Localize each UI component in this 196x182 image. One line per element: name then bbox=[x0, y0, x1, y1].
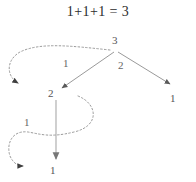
dashed-lower-s-curve bbox=[9, 96, 93, 166]
edge-label-left-to-bottom: 1 bbox=[24, 116, 30, 128]
tree-diagram-figure: 1+1+1 = 3 3 2 1 1 1 2 1 bbox=[0, 0, 196, 182]
edge-root-to-left bbox=[62, 52, 114, 88]
edge-root-to-right bbox=[118, 52, 170, 84]
node-right-leaf-label: 1 bbox=[170, 92, 176, 104]
dashed-upper-loop-curve bbox=[9, 46, 110, 83]
node-bottom-leaf-label: 1 bbox=[50, 164, 56, 176]
node-root-label: 3 bbox=[112, 34, 118, 46]
diagram-canvas bbox=[0, 0, 196, 182]
edge-label-root-to-left: 1 bbox=[63, 57, 69, 69]
node-left-child-label: 2 bbox=[48, 87, 54, 99]
edge-label-root-to-right: 2 bbox=[118, 59, 124, 71]
